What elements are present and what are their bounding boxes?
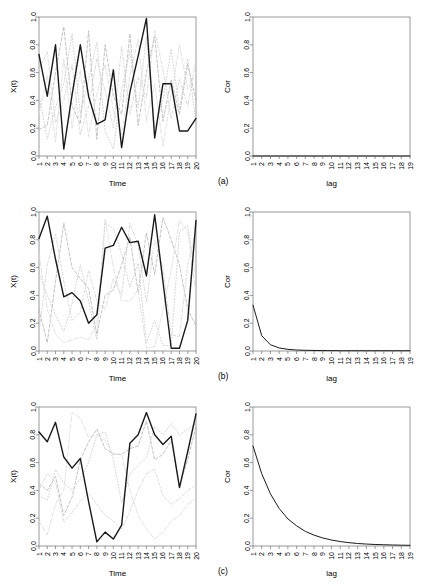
svg-text:0.4: 0.4 — [244, 290, 251, 300]
correlation-svg-b: 0.00.20.40.60.81.01234567891011121314151… — [214, 195, 428, 390]
svg-text:0.0: 0.0 — [30, 151, 37, 161]
svg-text:0.0: 0.0 — [244, 151, 251, 161]
svg-text:15: 15 — [151, 357, 158, 365]
svg-text:0.8: 0.8 — [244, 430, 251, 440]
svg-text:9: 9 — [102, 357, 109, 361]
svg-text:2: 2 — [258, 162, 265, 166]
svg-text:4: 4 — [276, 357, 283, 361]
svg-text:0.2: 0.2 — [30, 513, 37, 523]
svg-text:9: 9 — [319, 162, 326, 166]
svg-text:5: 5 — [284, 552, 291, 556]
svg-text:15: 15 — [372, 552, 379, 560]
svg-text:0.6: 0.6 — [244, 68, 251, 78]
svg-text:1: 1 — [36, 552, 43, 556]
panel-row-c: 0.00.20.40.60.81.01234567891011121314151… — [0, 390, 428, 585]
svg-text:19: 19 — [184, 162, 191, 170]
svg-text:13: 13 — [135, 357, 142, 365]
svg-text:16: 16 — [380, 162, 387, 170]
svg-text:4: 4 — [276, 162, 283, 166]
svg-text:8: 8 — [93, 552, 100, 556]
svg-text:Cor: Cor — [223, 275, 232, 288]
svg-text:2: 2 — [44, 357, 51, 361]
svg-text:5: 5 — [69, 162, 76, 166]
svg-text:0.6: 0.6 — [30, 68, 37, 78]
svg-text:X(t): X(t) — [9, 80, 18, 93]
svg-text:1.0: 1.0 — [244, 207, 251, 217]
svg-text:18: 18 — [176, 357, 183, 365]
svg-text:0.2: 0.2 — [244, 513, 251, 523]
svg-text:0.8: 0.8 — [30, 430, 37, 440]
svg-text:3: 3 — [267, 357, 274, 361]
svg-text:7: 7 — [85, 357, 92, 361]
svg-text:5: 5 — [284, 162, 291, 166]
svg-text:11: 11 — [337, 162, 344, 169]
svg-text:15: 15 — [151, 162, 158, 170]
svg-text:4: 4 — [60, 552, 67, 556]
svg-text:9: 9 — [102, 552, 109, 556]
panel-row-b: 0.00.20.40.60.81.01234567891011121314151… — [0, 195, 428, 390]
svg-text:10: 10 — [328, 162, 335, 170]
svg-text:0.4: 0.4 — [244, 485, 251, 495]
svg-text:3: 3 — [267, 552, 274, 556]
svg-text:6: 6 — [293, 357, 300, 361]
svg-text:0.4: 0.4 — [244, 95, 251, 105]
svg-text:Cor: Cor — [223, 470, 232, 483]
svg-text:8: 8 — [93, 357, 100, 361]
svg-text:19: 19 — [184, 552, 191, 560]
panel-label-c: (c) — [218, 566, 228, 576]
svg-text:7: 7 — [302, 162, 309, 166]
svg-text:12: 12 — [126, 162, 133, 170]
svg-text:10: 10 — [328, 357, 335, 365]
svg-text:Time: Time — [109, 374, 127, 383]
svg-text:0.8: 0.8 — [244, 235, 251, 245]
svg-text:0.0: 0.0 — [30, 541, 37, 551]
timeseries-plot-a: 0.00.20.40.60.81.01234567891011121314151… — [0, 0, 214, 195]
timeseries-svg-a: 0.00.20.40.60.81.01234567891011121314151… — [0, 0, 214, 195]
svg-text:4: 4 — [276, 552, 283, 556]
correlation-plot-c: 0.00.20.40.60.81.01234567891011121314151… — [214, 390, 428, 585]
svg-text:lag: lag — [326, 179, 337, 188]
svg-text:1.0: 1.0 — [244, 12, 251, 22]
svg-text:18: 18 — [398, 552, 405, 560]
svg-text:7: 7 — [85, 162, 92, 166]
svg-text:16: 16 — [159, 552, 166, 560]
svg-text:17: 17 — [168, 162, 175, 170]
svg-text:9: 9 — [102, 162, 109, 166]
svg-text:3: 3 — [52, 552, 59, 556]
svg-text:16: 16 — [159, 357, 166, 365]
svg-text:8: 8 — [311, 357, 318, 361]
svg-text:11: 11 — [118, 357, 125, 364]
svg-text:8: 8 — [311, 162, 318, 166]
svg-text:1.0: 1.0 — [244, 402, 251, 412]
svg-text:12: 12 — [345, 357, 352, 365]
svg-text:14: 14 — [363, 552, 370, 560]
svg-text:0.6: 0.6 — [244, 458, 251, 468]
svg-text:6: 6 — [293, 162, 300, 166]
svg-text:4: 4 — [60, 357, 67, 361]
svg-text:16: 16 — [380, 552, 387, 560]
panel-label-b: (b) — [218, 371, 228, 381]
svg-text:13: 13 — [354, 162, 361, 170]
svg-text:8: 8 — [93, 162, 100, 166]
svg-text:Cor: Cor — [223, 80, 232, 93]
svg-text:13: 13 — [135, 162, 142, 170]
svg-text:17: 17 — [389, 357, 396, 365]
svg-text:0.2: 0.2 — [30, 123, 37, 133]
svg-text:20: 20 — [193, 357, 200, 365]
svg-text:20: 20 — [193, 552, 200, 560]
svg-text:17: 17 — [389, 162, 396, 170]
correlation-svg-c: 0.00.20.40.60.81.01234567891011121314151… — [214, 390, 428, 585]
svg-text:3: 3 — [267, 162, 274, 166]
svg-text:0.2: 0.2 — [30, 318, 37, 328]
svg-text:2: 2 — [258, 552, 265, 556]
svg-text:lag: lag — [326, 569, 337, 578]
svg-text:10: 10 — [110, 162, 117, 170]
svg-text:17: 17 — [168, 552, 175, 560]
svg-text:0.0: 0.0 — [244, 346, 251, 356]
svg-text:Time: Time — [109, 569, 127, 578]
correlation-plot-a: 0.00.20.40.60.81.01234567891011121314151… — [214, 0, 428, 195]
svg-text:6: 6 — [77, 357, 84, 361]
svg-text:12: 12 — [126, 552, 133, 560]
svg-text:8: 8 — [311, 552, 318, 556]
svg-text:11: 11 — [337, 552, 344, 559]
